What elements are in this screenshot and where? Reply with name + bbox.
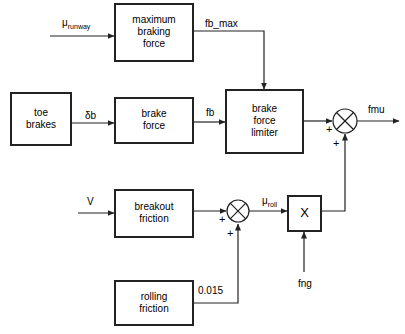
plus-sign-sum-output-bottom: + xyxy=(333,138,339,149)
block-label-multiplier: X xyxy=(288,206,321,219)
block-breakout-friction[interactable] xyxy=(115,190,193,237)
signal-label-constant-0015: 0.015 xyxy=(198,285,223,296)
mu-runway-subscript: runway xyxy=(68,23,91,30)
plus-sign-sum-output-left: + xyxy=(326,124,332,135)
signal-label-delta-b: δb xyxy=(85,110,96,121)
signal-label-mu-runway: μrunway xyxy=(62,17,90,30)
plus-sign-sum-roll-bottom: + xyxy=(227,228,233,239)
block-brake-force[interactable] xyxy=(115,98,193,143)
block-toe-brakes[interactable] xyxy=(11,93,71,145)
block-brake-force-limiter[interactable] xyxy=(226,90,303,153)
signal-label-fng: fng xyxy=(298,278,312,289)
diagram-vector-layer xyxy=(0,0,405,334)
mu-roll-subscript: roll xyxy=(268,201,277,208)
block-diagram-canvas: maximum braking force toe brakes brake f… xyxy=(0,0,405,334)
block-maximum-braking-force[interactable] xyxy=(115,4,193,61)
signal-label-fb-max: fb_max xyxy=(205,18,238,29)
block-rolling-friction[interactable] xyxy=(115,281,193,325)
line-fb-max-to-limiter xyxy=(193,31,264,89)
signal-label-fb: fb xyxy=(206,107,214,118)
signal-label-v: V xyxy=(87,196,94,207)
signal-label-mu-roll: μroll xyxy=(262,195,277,208)
signal-label-fmu: fmu xyxy=(368,104,385,115)
plus-sign-sum-roll-left: + xyxy=(219,214,225,225)
